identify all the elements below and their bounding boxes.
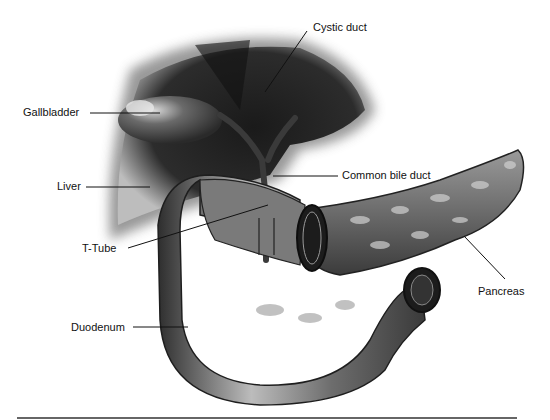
gallbladder-shape (118, 96, 222, 144)
anatomy-figure: Cystic duct Gallbladder Common bile duct… (0, 0, 550, 420)
label-cystic-duct: Cystic duct (313, 21, 367, 33)
label-gallbladder: Gallbladder (23, 106, 79, 118)
label-common-bile-duct: Common bile duct (342, 169, 431, 181)
label-duodenum: Duodenum (71, 321, 125, 333)
label-pancreas: Pancreas (478, 285, 524, 297)
label-t-tube: T-Tube (82, 242, 116, 254)
label-liver: Liver (57, 180, 81, 192)
anatomy-illustration (0, 0, 550, 420)
